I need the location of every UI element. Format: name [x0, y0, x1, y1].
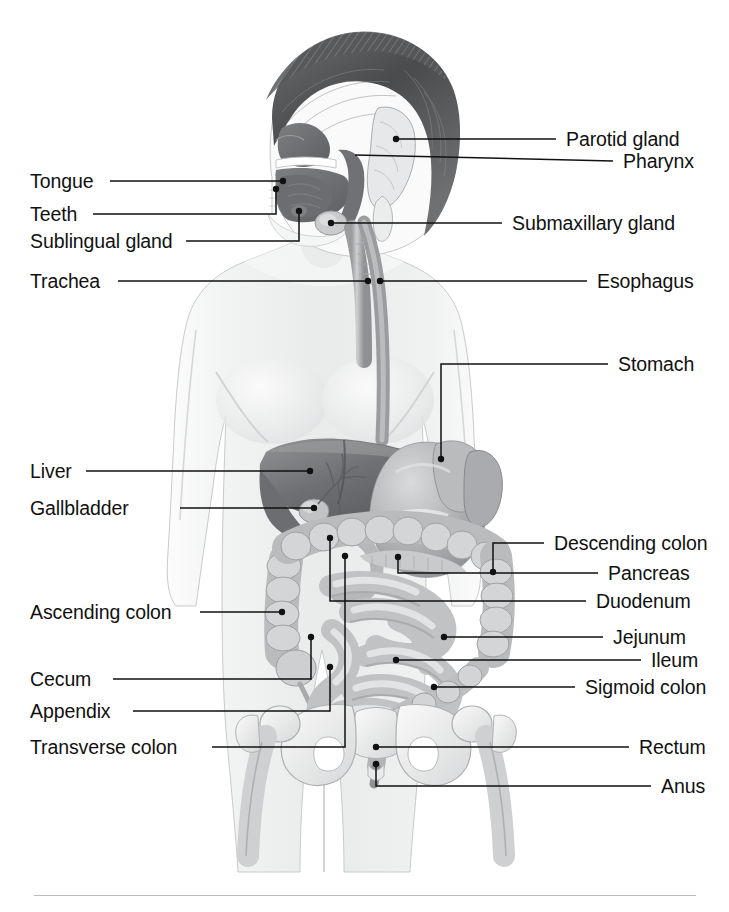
label-submaxillary-gland: Submaxillary gland: [512, 214, 675, 234]
leader-dot-stomach: [438, 456, 444, 462]
leader-dot-rectum: [373, 744, 379, 750]
label-appendix: Appendix: [30, 702, 111, 722]
leader-dot-esophagus: [377, 278, 383, 284]
label-jejunum: Jejunum: [613, 628, 686, 648]
leader-dot-appendix: [327, 664, 333, 670]
leader-dot-ascending-colon: [279, 609, 285, 615]
leader-dot-pancreas: [395, 554, 401, 560]
label-parotid-gland: Parotid gland: [566, 130, 680, 150]
leader-dot-anus: [373, 761, 379, 767]
leader-dot-parotid-gland: [393, 136, 399, 142]
label-descending-colon: Descending colon: [554, 534, 707, 554]
label-pharynx: Pharynx: [623, 152, 694, 172]
label-pancreas: Pancreas: [608, 564, 690, 584]
label-ascending-colon: Ascending colon: [30, 603, 172, 623]
leader-dot-sigmoid-colon: [431, 684, 437, 690]
label-stomach: Stomach: [618, 355, 694, 375]
label-cecum: Cecum: [30, 670, 91, 690]
label-trachea: Trachea: [30, 272, 100, 292]
leader-dot-tongue: [280, 178, 286, 184]
footer-rule: [34, 895, 696, 896]
label-ileum: Ileum: [651, 651, 698, 671]
leader-dot-submaxillary-gland: [328, 220, 334, 226]
figure-canvas: Parotid glandPharynxTongueTeethSublingua…: [0, 0, 729, 912]
label-anus: Anus: [661, 777, 705, 797]
label-sublingual-gland: Sublingual gland: [30, 232, 173, 252]
label-gallbladder: Gallbladder: [30, 499, 129, 519]
leader-dot-jejunum: [441, 634, 447, 640]
leader-dot-teeth: [273, 186, 279, 192]
label-transverse-colon: Transverse colon: [30, 738, 177, 758]
ascending-colon-shape: [265, 553, 301, 652]
label-liver: Liver: [30, 462, 72, 482]
label-sigmoid-colon: Sigmoid colon: [585, 678, 706, 698]
leader-dot-gallbladder: [311, 505, 317, 511]
label-duodenum: Duodenum: [596, 592, 691, 612]
label-tongue: Tongue: [30, 172, 93, 192]
label-rectum: Rectum: [639, 738, 706, 758]
label-esophagus: Esophagus: [597, 272, 694, 292]
leader-dot-liver: [307, 468, 313, 474]
leader-dot-duodenum: [327, 535, 333, 541]
leader-dot-ileum: [393, 657, 399, 663]
leader-dot-trachea: [365, 278, 371, 284]
leader-dot-sublingual-gland: [296, 208, 302, 214]
label-teeth: Teeth: [30, 205, 77, 225]
leader-dot-cecum: [308, 634, 314, 640]
leader-teeth: [93, 189, 276, 214]
leader-dot-descending-colon: [490, 569, 496, 575]
leader-dot-transverse-colon: [342, 553, 348, 559]
